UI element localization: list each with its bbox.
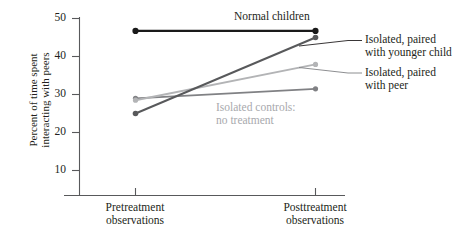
series-label-isolated-younger-child-line2: with younger child xyxy=(365,46,452,59)
series-normal-children xyxy=(132,28,318,34)
leader-lines xyxy=(299,41,362,74)
series-label-isolated-controls-line2: no treatment xyxy=(216,114,274,127)
series-label-isolated-peer-line2: with peer xyxy=(365,79,408,92)
x-axis-ticks xyxy=(136,188,316,196)
x-tick-label-pretreatment-line1: Pretreatment xyxy=(85,201,185,214)
series-label-normal-children: Normal children xyxy=(234,10,310,23)
x-tick-label-posttreatment-line2: observations xyxy=(265,214,365,227)
series-label-isolated-younger-child-line1: Isolated, paired xyxy=(365,33,436,46)
y-axis-title-line1: Percent of time spent xyxy=(27,20,39,180)
figure-container: 50 40 30 20 10 Percent of time spent int… xyxy=(0,0,461,250)
x-tick-label-pretreatment-line2: observations xyxy=(85,214,185,227)
y-axis-title-line2: interacting with peers xyxy=(39,20,51,180)
y-axis-ticks xyxy=(72,19,80,171)
series-label-isolated-peer-line1: Isolated, paired xyxy=(365,66,436,79)
series-label-isolated-controls-line1: Isolated controls: xyxy=(216,101,296,114)
leader-line-peer xyxy=(299,68,362,74)
series-isolated-controls xyxy=(133,86,318,101)
x-tick-label-posttreatment-line1: Posttreatment xyxy=(265,201,365,214)
